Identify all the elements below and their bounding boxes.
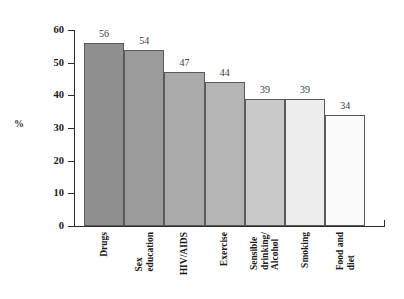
bar-value-label: 44 xyxy=(205,68,245,78)
bar xyxy=(245,99,285,226)
x-axis-category-label: Drugs xyxy=(99,232,110,257)
y-axis-tick-label: 10 xyxy=(36,188,64,199)
y-axis-tick xyxy=(68,30,75,31)
y-axis-tick xyxy=(68,95,75,96)
y-axis-tick-label: 40 xyxy=(36,90,64,101)
y-axis-label: % xyxy=(14,118,24,129)
y-axis-tick xyxy=(68,161,75,162)
y-axis-tick-label: 0 xyxy=(36,221,64,232)
bar xyxy=(84,43,124,226)
x-axis-category-label: Food and diet xyxy=(335,232,356,270)
y-axis-tick xyxy=(68,193,75,194)
x-axis-category-label: Smoking xyxy=(300,232,311,268)
y-axis-tick xyxy=(68,128,75,129)
plot-area xyxy=(84,30,366,226)
x-axis-category-label: Exercise xyxy=(219,232,230,266)
x-axis-line xyxy=(74,226,385,227)
bar-chart: % 0102030405060 DrugsSex educationHIV/AI… xyxy=(0,0,404,299)
bar-value-label: 54 xyxy=(124,36,164,46)
x-axis-category-label: HIV/AIDS xyxy=(179,232,190,275)
bar-value-label: 39 xyxy=(245,85,285,95)
bar xyxy=(285,99,325,226)
bar xyxy=(164,72,204,226)
bar-value-label: 39 xyxy=(285,85,325,95)
x-axis-category-label: Sex education xyxy=(134,232,155,272)
bar-value-label: 56 xyxy=(84,29,124,39)
y-axis-tick-label: 60 xyxy=(36,25,64,36)
y-axis-tick xyxy=(68,63,75,64)
x-axis-end-tick xyxy=(384,220,385,227)
bar xyxy=(124,50,164,226)
bar-value-label: 47 xyxy=(164,58,204,68)
x-axis-category-label: Sensible drinking/ Alcohol xyxy=(249,232,281,270)
y-axis-tick-label: 30 xyxy=(36,123,64,134)
bar xyxy=(325,115,365,226)
y-axis-tick-label: 20 xyxy=(36,156,64,167)
y-axis-tick-label: 50 xyxy=(36,58,64,69)
bar xyxy=(205,82,245,226)
bar-value-label: 34 xyxy=(325,101,365,111)
